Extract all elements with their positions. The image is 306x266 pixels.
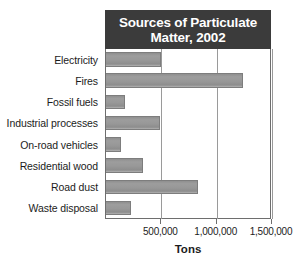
- bar-row: [106, 155, 272, 176]
- category-label-road-dust: Road dust: [51, 177, 98, 198]
- category-label-fossil-fuels: Fossil fuels: [47, 92, 98, 113]
- plot-area: [105, 49, 271, 219]
- bar-chart-figure: Sources of Particulate Matter, 2002 Elec…: [0, 0, 306, 266]
- bar-on-road-vehicles: [106, 137, 121, 152]
- x-axis-title: Tons: [105, 243, 271, 255]
- chart-title: Sources of Particulate Matter, 2002: [119, 15, 257, 45]
- tick-mark: [271, 219, 272, 224]
- gridline-1500000: [272, 49, 273, 219]
- bar-row: [106, 70, 272, 91]
- bar-electricity: [106, 52, 161, 67]
- bar-fires: [106, 73, 243, 88]
- bars-container: [106, 49, 272, 219]
- bar-fossil-fuels: [106, 95, 125, 110]
- x-tick-label: 1,000,000: [194, 226, 237, 237]
- tick-mark: [216, 219, 217, 224]
- category-axis-labels: ElectricityFiresFossil fuelsIndustrial p…: [0, 49, 102, 219]
- bar-row: [106, 134, 272, 155]
- chart-title-line-2: Matter, 2002: [151, 30, 226, 45]
- category-label-on-road-vehicles: On-road vehicles: [20, 134, 98, 155]
- bar-row: [106, 113, 272, 134]
- bar-road-dust: [106, 180, 198, 195]
- chart-title-line-1: Sources of Particulate: [119, 15, 257, 30]
- bar-industrial-processes: [106, 116, 160, 131]
- category-label-fires: Fires: [75, 70, 98, 91]
- chart-title-banner: Sources of Particulate Matter, 2002: [105, 10, 271, 49]
- category-label-industrial-processes: Industrial processes: [7, 113, 98, 134]
- tick-mark: [160, 219, 161, 224]
- bar-row: [106, 177, 272, 198]
- bar-row: [106, 198, 272, 219]
- x-tick-label: 500,000: [143, 226, 178, 237]
- bar-waste-disposal: [106, 201, 131, 216]
- category-label-electricity: Electricity: [54, 49, 98, 70]
- category-label-residential-wood: Residential wood: [20, 155, 98, 176]
- bar-row: [106, 92, 272, 113]
- bar-residential-wood: [106, 158, 143, 173]
- x-tick-label: 1,500,000: [250, 226, 293, 237]
- category-label-waste-disposal: Waste disposal: [29, 198, 98, 219]
- bar-row: [106, 49, 272, 70]
